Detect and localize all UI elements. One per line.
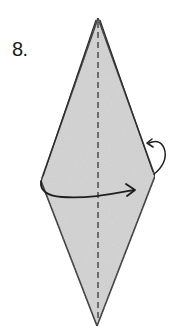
origami-diagram bbox=[0, 0, 173, 333]
